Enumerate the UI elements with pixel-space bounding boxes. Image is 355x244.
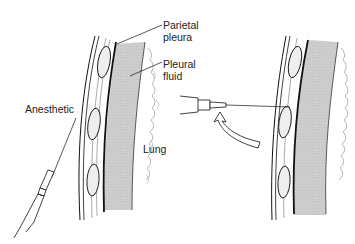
parietal-pleura-leader: [117, 25, 162, 44]
label-parietal-pleura: Parietal pleura: [163, 19, 199, 43]
right-chest-wall: [272, 36, 348, 220]
label-pleural-fluid: Pleural fluid: [163, 58, 196, 82]
label-anesthetic: Anesthetic: [25, 103, 74, 115]
left-syringe: [14, 118, 76, 238]
left-chest-wall: [79, 36, 159, 220]
curved-arrow-icon: [214, 112, 260, 148]
label-lung: Lung: [143, 143, 166, 155]
right-syringe: [180, 96, 290, 114]
